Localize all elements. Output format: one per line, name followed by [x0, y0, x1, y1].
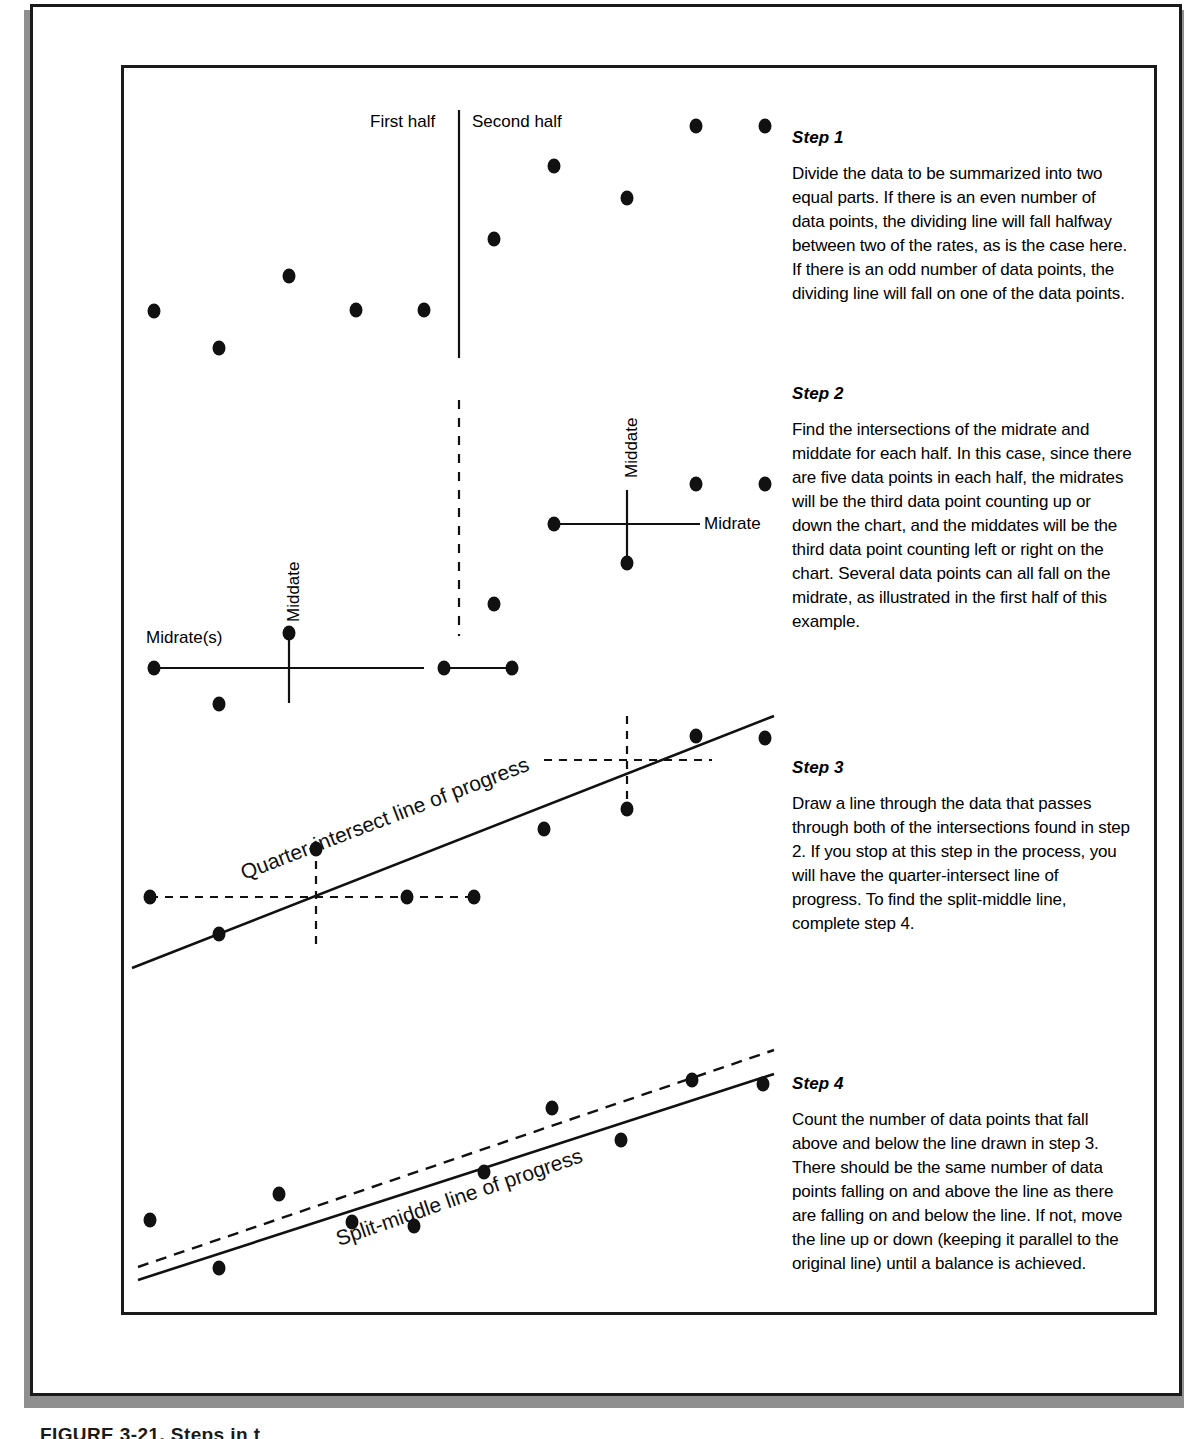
- data-point: [686, 1073, 699, 1088]
- data-point: [690, 119, 703, 134]
- first-half-label: First half: [370, 112, 435, 132]
- data-point: [759, 477, 772, 492]
- quarter-intersect-line: [132, 716, 774, 968]
- middate-label-second-half: Middate: [622, 418, 642, 478]
- split-middle-line-label: Split-middle line of progress: [333, 1144, 585, 1250]
- step-1-heading: Step 1: [792, 128, 1132, 148]
- figure-caption: FIGURE 3-21. Steps in t: [40, 1424, 260, 1439]
- data-point: [538, 822, 551, 837]
- figure-box: First half Second half: [121, 65, 1157, 1315]
- data-point: [759, 731, 772, 746]
- data-point: [546, 1101, 559, 1116]
- data-point: [144, 890, 157, 905]
- data-point: [621, 556, 634, 571]
- data-point: [401, 890, 414, 905]
- step-2-body: Find the intersections of the midrate an…: [792, 418, 1132, 634]
- data-point: [213, 341, 226, 356]
- data-point: [757, 1077, 770, 1092]
- data-points: [144, 1073, 770, 1276]
- data-point: [506, 661, 519, 676]
- data-point: [621, 802, 634, 817]
- data-point: [548, 517, 561, 532]
- data-point: [488, 232, 501, 247]
- step-4-text: Step 4 Count the number of data points t…: [792, 1074, 1132, 1276]
- step1-plot-area: [124, 86, 784, 376]
- data-point: [759, 119, 772, 134]
- second-half-label: Second half: [472, 112, 562, 132]
- data-points: [144, 729, 772, 942]
- data-point: [273, 1187, 286, 1202]
- data-point: [615, 1133, 628, 1148]
- data-point: [350, 303, 363, 318]
- midrate-label-second-half: Midrate: [704, 514, 761, 534]
- data-point: [148, 304, 161, 319]
- data-point: [283, 626, 296, 641]
- step4-chart: Split-middle line of progress: [124, 988, 784, 1298]
- data-point: [621, 191, 634, 206]
- data-point: [438, 661, 451, 676]
- data-point: [548, 159, 561, 174]
- data-point: [690, 477, 703, 492]
- step-4-body: Count the number of data points that fal…: [792, 1108, 1132, 1276]
- original-line: [138, 1074, 774, 1280]
- data-point: [468, 890, 481, 905]
- step3-chart: Quarter-intersect line of progress: [124, 696, 784, 986]
- data-point: [144, 1213, 157, 1228]
- data-point: [283, 269, 296, 284]
- data-point: [213, 1261, 226, 1276]
- split-middle-line: [138, 1050, 774, 1267]
- data-point: [418, 303, 431, 318]
- step4-plot-area: Split-middle line of progress: [124, 988, 804, 1298]
- step-3-heading: Step 3: [792, 758, 1132, 778]
- data-point: [148, 661, 161, 676]
- step-1-text: Step 1 Divide the data to be summarized …: [792, 128, 1132, 306]
- step-2-text: Step 2 Find the intersections of the mid…: [792, 384, 1132, 634]
- step1-chart: First half Second half: [124, 86, 784, 376]
- step3-plot-area: Quarter-intersect line of progress: [124, 696, 804, 986]
- step-3-body: Draw a line through the data that passes…: [792, 792, 1132, 936]
- data-point: [213, 927, 226, 942]
- quarter-intersect-line-label: Quarter-intersect line of progress: [237, 752, 532, 883]
- page-frame: First half Second half: [30, 4, 1182, 1396]
- data-point: [690, 729, 703, 744]
- step-3-text: Step 3 Draw a line through the data that…: [792, 758, 1132, 936]
- step-4-heading: Step 4: [792, 1074, 1132, 1094]
- step-2-heading: Step 2: [792, 384, 1132, 404]
- step-1-body: Divide the data to be summarized into tw…: [792, 162, 1132, 306]
